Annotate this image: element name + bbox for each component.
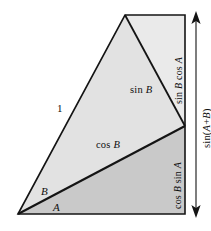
label-cos-b-sin-a-fn1: cos (172, 195, 183, 209)
label-total-var1: A (201, 125, 211, 132)
label-cos-b-sin-a-var2: A (172, 162, 183, 168)
label-cos-b-sin-a: cos B sin A (173, 162, 183, 209)
label-cos-b: cos B (96, 140, 120, 151)
label-total-plus: + (201, 119, 211, 125)
label-angle-b: B (41, 186, 48, 197)
label-angle-a: A (53, 202, 60, 213)
label-sin-b-cos-a-var1: B (173, 83, 184, 89)
label-sin-b-cos-a-var2: A (173, 57, 184, 63)
label-total-var2: B (201, 112, 211, 119)
label-sin-b-var: B (146, 84, 153, 95)
label-total-close: ) (201, 108, 211, 112)
label-total-fn: sin( (201, 131, 211, 148)
label-hypotenuse-one: 1 (57, 103, 63, 114)
trig-identity-figure: 1 B A sin B cos B sin B cos A cos B sin … (0, 0, 211, 231)
label-sin-b: sin B (130, 85, 152, 96)
label-sin-b-cos-a-fn1: sin (173, 92, 184, 104)
label-sin-b-fn: sin (130, 84, 143, 95)
label-cos-b-var: B (113, 139, 120, 150)
label-sin-b-cos-a-fn2: cos (173, 66, 184, 80)
label-cos-b-sin-a-var1: B (172, 186, 183, 192)
label-sin-a-plus-b: sin(A+B) (200, 108, 211, 148)
label-cos-b-fn: cos (96, 139, 111, 150)
label-cos-b-sin-a-fn2: sin (172, 171, 183, 183)
label-sin-b-cos-a: sin B cos A (174, 57, 184, 104)
